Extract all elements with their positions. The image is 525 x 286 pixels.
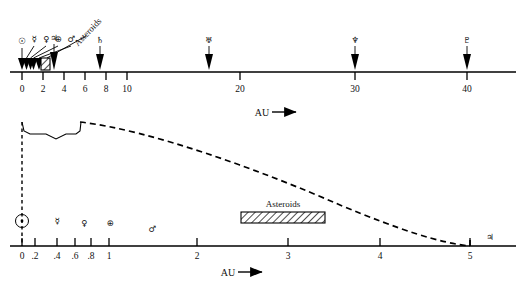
top-panel: 0 2 4 6 8 10 20 30 40 (10, 16, 516, 118)
bottom-axis-title: AU (221, 267, 262, 278)
bottom-tick-label: 4 (378, 251, 383, 261)
bottom-tick-label: .4 (53, 251, 60, 261)
top-tick-label: 10 (122, 84, 132, 94)
pluto-arrowhead (463, 54, 471, 70)
bottom-panel: 0 .2 .4 .6 .8 1 2 3 4 5 ☿ ♀ ⊕ ♂ ♃ Astero… (10, 122, 516, 278)
uranus-arrowhead (205, 54, 213, 70)
bottom-asteroids-label: Asteroids (266, 199, 301, 209)
top-axis-leader-lines (22, 36, 467, 58)
bottom-axis-tick-labels: 0 .2 .4 .6 .8 1 2 3 4 5 (20, 251, 473, 261)
top-tick-label: 8 (104, 84, 109, 94)
top-axis-title: AU (255, 107, 296, 118)
pluto-symbol-icon: ♇ (463, 35, 471, 45)
magnification-curve (80, 122, 470, 246)
bottom-tick-label: .8 (87, 251, 94, 261)
venus-symbol-icon: ♀ (81, 218, 87, 228)
top-tick-label: 0 (20, 84, 25, 94)
earth-symbol-icon: ⊕ (106, 218, 113, 228)
bottom-au-label: AU (221, 267, 236, 278)
top-au-label: AU (255, 107, 270, 118)
venus-symbol-icon: ♀ (43, 34, 49, 44)
jupiter-arrowhead (50, 52, 58, 70)
mars-symbol-icon: ♂ (148, 224, 156, 234)
bottom-tick-label: .2 (31, 251, 38, 261)
bottom-tick-label: .6 (71, 251, 78, 261)
jupiter-symbol-icon: ♃ (50, 33, 58, 43)
saturn-symbol-icon: ♄ (96, 35, 104, 45)
top-axis-tick-labels: 0 2 4 6 8 10 20 30 40 (20, 84, 472, 94)
mercury-symbol-icon: ☿ (54, 216, 59, 226)
bottom-tick-label: 0 (20, 251, 25, 261)
top-tick-label: 4 (62, 84, 67, 94)
bottom-tick-label: 2 (195, 251, 200, 261)
solar-system-distance-figure: 0 2 4 6 8 10 20 30 40 (0, 0, 525, 286)
neptune-arrowhead (351, 54, 359, 70)
uranus-symbol-icon: ♅ (205, 35, 213, 45)
top-axis-ticks (22, 72, 467, 80)
sun-dot-icon (21, 220, 24, 223)
bottom-tick-label: 3 (286, 251, 291, 261)
sun-symbol-icon: ☉ (18, 36, 26, 46)
saturn-arrowhead (96, 54, 104, 70)
top-asteroid-band (41, 58, 50, 70)
jupiter-symbol-icon: ♃ (486, 232, 494, 242)
bottom-asteroid-band (241, 212, 325, 223)
top-tick-label: 30 (350, 84, 360, 94)
magnification-brace (22, 122, 81, 139)
top-tick-label: 20 (235, 84, 245, 94)
top-tick-label: 6 (83, 84, 88, 94)
bottom-axis-ticks (22, 238, 470, 246)
bottom-tick-label: 1 (107, 251, 112, 261)
bottom-tick-label: 5 (468, 251, 473, 261)
top-tick-label: 40 (462, 84, 472, 94)
top-tick-label: 2 (41, 84, 46, 94)
neptune-symbol-icon: ♆ (351, 35, 359, 45)
top-axis-planet-arrowheads (18, 52, 471, 70)
mercury-symbol-icon: ☿ (31, 34, 36, 44)
